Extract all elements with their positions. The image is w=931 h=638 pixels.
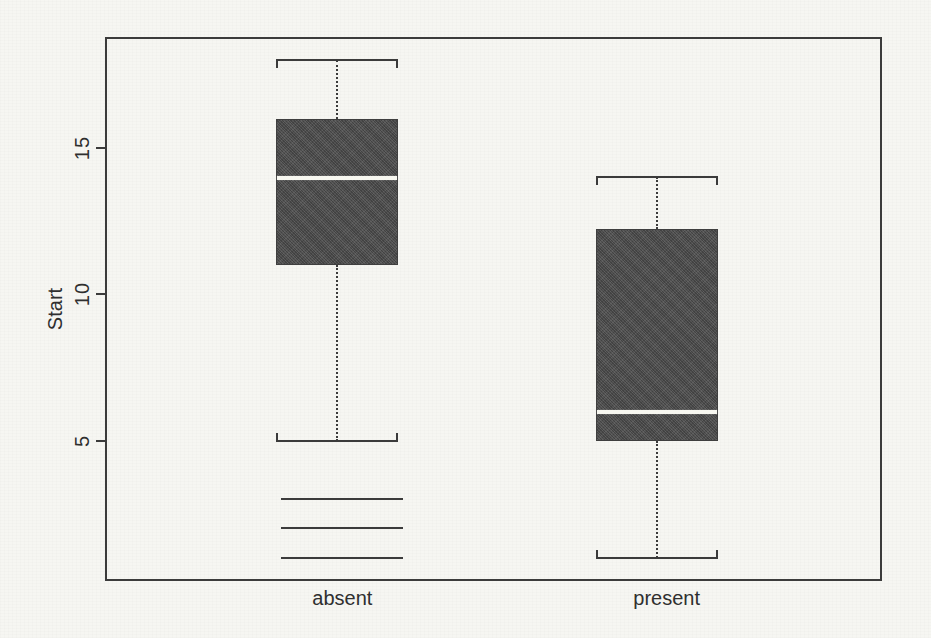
- y-axis-title: Start: [42, 249, 68, 369]
- y-tick-label: 10: [69, 272, 95, 316]
- lower-whisker-cap: [596, 550, 718, 559]
- upper-whisker-cap: [596, 176, 718, 185]
- median-line: [597, 410, 717, 414]
- box-absent: [276, 119, 398, 265]
- boxplot-figure: Start 51015 absentpresent: [0, 0, 931, 638]
- x-category-label-present: present: [597, 587, 737, 610]
- lower-whisker-line: [336, 265, 338, 440]
- box-present: [596, 229, 718, 441]
- y-tick: [96, 293, 105, 295]
- y-tick-label: 5: [69, 419, 95, 463]
- y-tick: [96, 440, 105, 442]
- outlier-line: [281, 527, 403, 529]
- outlier-line: [281, 498, 403, 500]
- lower-whisker-line: [656, 441, 658, 558]
- y-tick-label: 15: [69, 126, 95, 170]
- x-category-label-absent: absent: [272, 587, 412, 610]
- y-tick: [96, 147, 105, 149]
- median-line: [277, 176, 397, 180]
- lower-whisker-cap: [276, 433, 398, 442]
- upper-whisker-line: [336, 60, 338, 118]
- upper-whisker-cap: [276, 59, 398, 68]
- plot-area: [105, 37, 882, 581]
- outlier-line: [281, 557, 403, 559]
